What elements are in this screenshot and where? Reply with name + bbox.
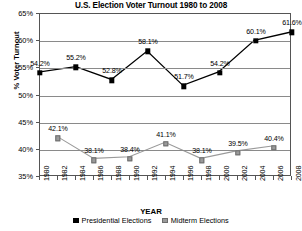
x-tick-label: 1988 — [114, 166, 123, 181]
data-point-marker — [37, 70, 42, 75]
x-tick-label: 1984 — [78, 166, 87, 181]
y-tick-mark — [36, 95, 40, 96]
y-tick-label: 40% — [2, 145, 33, 154]
x-tick-mark — [93, 176, 94, 180]
x-tick-mark — [165, 176, 166, 180]
x-tick-mark — [291, 176, 292, 180]
chart-legend: Presidential Elections Midterm Elections — [0, 216, 302, 225]
legend-item-midterm: Midterm Elections — [162, 216, 228, 225]
y-tick-label: 65% — [2, 9, 33, 18]
y-tick-label: 60% — [2, 36, 33, 45]
data-point-label: 38.4% — [120, 146, 139, 154]
x-tick-mark — [255, 176, 256, 180]
x-tick-mark — [237, 176, 238, 180]
data-point-label: 54.2% — [210, 60, 229, 68]
plot-area: 54.2%55.2%52.8%58.1%51.7%54.2%60.1%61.6%… — [39, 13, 291, 176]
x-tick-label: 2006 — [276, 166, 285, 181]
data-point-label: 60.1% — [246, 28, 265, 36]
x-tick-label: 1982 — [60, 166, 69, 181]
x-tick-mark — [39, 176, 40, 180]
y-tick-mark — [36, 40, 40, 41]
x-tick-label: 2004 — [258, 166, 267, 181]
data-point-marker — [271, 145, 276, 150]
data-point-marker — [55, 136, 60, 141]
x-tick-label: 1992 — [150, 166, 159, 181]
data-point-marker — [289, 30, 294, 35]
data-point-label: 39.5% — [228, 140, 247, 148]
data-point-marker — [235, 150, 240, 155]
x-tick-mark — [111, 176, 112, 180]
x-tick-label: 1998 — [204, 166, 213, 181]
y-tick-label: 45% — [2, 118, 33, 127]
x-tick-mark — [183, 176, 184, 180]
x-tick-mark — [147, 176, 148, 180]
data-point-label: 42.1% — [48, 125, 67, 133]
data-point-marker — [91, 157, 96, 162]
x-tick-label: 2000 — [222, 166, 231, 181]
data-point-marker — [163, 141, 168, 146]
chart-container: U.S. Election Voter Turnout 1980 to 2008… — [0, 0, 302, 231]
x-tick-label: 1996 — [186, 166, 195, 181]
data-point-marker — [127, 156, 132, 161]
y-tick-mark — [36, 13, 40, 14]
legend-swatch-presidential-icon — [73, 218, 78, 223]
data-point-label: 38.1% — [84, 147, 103, 155]
x-tick-mark — [201, 176, 202, 180]
x-tick-label: 1986 — [96, 166, 105, 181]
x-tick-label: 2008 — [294, 166, 302, 181]
x-tick-label: 1994 — [168, 166, 177, 181]
x-tick-mark — [75, 176, 76, 180]
legend-item-presidential: Presidential Elections — [73, 216, 151, 225]
data-point-label: 55.2% — [66, 54, 85, 62]
y-tick-label: 50% — [2, 91, 33, 100]
data-point-marker — [217, 70, 222, 75]
data-point-marker — [73, 65, 78, 70]
data-point-label: 61.6% — [282, 19, 301, 27]
gridline — [40, 150, 290, 151]
x-tick-mark — [57, 176, 58, 180]
data-point-label: 51.7% — [174, 73, 193, 81]
data-point-marker — [145, 49, 150, 54]
data-point-label: 54.2% — [30, 60, 49, 68]
gridline — [40, 96, 290, 97]
data-point-marker — [109, 78, 114, 83]
data-point-marker — [181, 84, 186, 89]
data-point-label: 41.1% — [156, 131, 175, 139]
y-tick-label: 55% — [2, 63, 33, 72]
data-point-label: 38.1% — [192, 147, 211, 155]
x-axis-title: YEAR — [0, 207, 302, 216]
x-tick-label: 1980 — [42, 166, 51, 181]
x-tick-label: 2002 — [240, 166, 249, 181]
y-tick-label: 35% — [2, 172, 33, 181]
y-tick-mark — [36, 122, 40, 123]
legend-swatch-midterm-icon — [162, 218, 167, 223]
gridline — [40, 123, 290, 124]
chart-title: U.S. Election Voter Turnout 1980 to 2008 — [0, 1, 302, 10]
y-tick-mark — [36, 149, 40, 150]
y-tick-mark — [36, 67, 40, 68]
legend-label-midterm: Midterm Elections — [171, 216, 229, 225]
data-point-label: 40.4% — [264, 135, 283, 143]
data-point-label: 52.8% — [102, 67, 121, 75]
legend-label-presidential: Presidential Elections — [82, 216, 152, 225]
x-tick-mark — [219, 176, 220, 180]
data-point-marker — [199, 157, 204, 162]
data-point-marker — [253, 38, 258, 43]
data-point-label: 58.1% — [138, 38, 157, 46]
x-tick-label: 1990 — [132, 166, 141, 181]
x-tick-mark — [273, 176, 274, 180]
x-tick-mark — [129, 176, 130, 180]
